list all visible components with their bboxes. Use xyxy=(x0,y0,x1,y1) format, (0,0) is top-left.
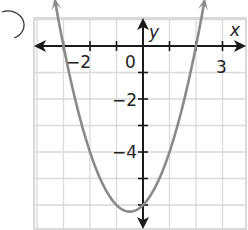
x-tick-label-3: 3 xyxy=(216,57,227,77)
curve-arrowheads xyxy=(52,0,208,11)
y-tick-label-neg4: −4 xyxy=(112,142,137,162)
coordinate-plane: x y −2 0 3 −2 −4 xyxy=(0,0,248,230)
x-tick-label-neg2: −2 xyxy=(66,52,91,72)
problem-circle-marker xyxy=(2,11,24,38)
axes xyxy=(34,18,246,229)
origin-label: 0 xyxy=(125,52,136,72)
grid-lines xyxy=(34,18,246,229)
x-axis-label: x xyxy=(229,20,241,40)
graph-figure: x y −2 0 3 −2 −4 xyxy=(0,0,248,230)
y-axis-label: y xyxy=(148,22,160,42)
y-tick-label-neg2: −2 xyxy=(112,90,137,110)
